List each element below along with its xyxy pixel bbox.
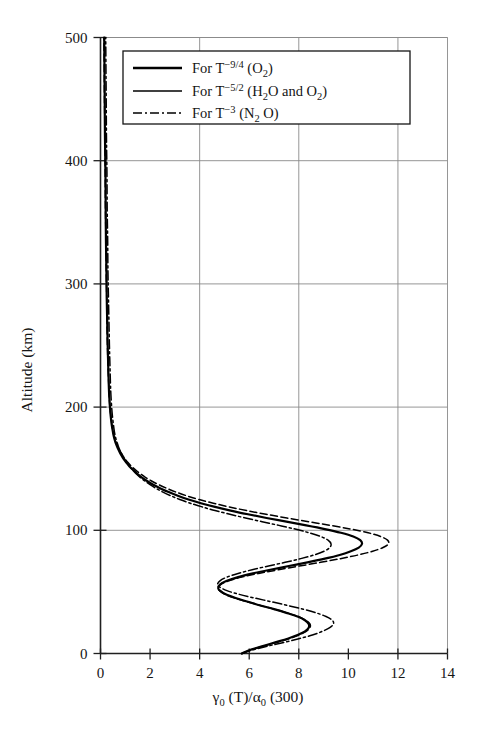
xtick-label-4: 4	[196, 665, 204, 681]
x-title-mid: (T)/	[225, 688, 254, 706]
ytick-label-500: 500	[65, 30, 88, 46]
x-title-gamma: γ	[212, 688, 220, 705]
legend: For T−9/4 (O2) For T−5/2 (H2O and O2) Fo…	[123, 51, 410, 124]
x-title-alpha: α	[253, 688, 261, 705]
altitude-vs-gamma-ratio-chart: 024681012140100200300400500 Altitude (km…	[0, 0, 497, 745]
ytick-label-200: 200	[65, 399, 88, 415]
xtick-label-14: 14	[440, 665, 456, 681]
chart-figure: 024681012140100200300400500 Altitude (km…	[0, 0, 497, 745]
xtick-label-6: 6	[245, 665, 253, 681]
xtick-label-2: 2	[146, 665, 154, 681]
x-title-end: (300)	[266, 688, 303, 706]
ytick-label-400: 400	[65, 153, 88, 169]
xtick-label-10: 10	[341, 665, 356, 681]
xtick-label-12: 12	[390, 665, 405, 681]
xtick-label-0: 0	[97, 665, 105, 681]
ytick-label-0: 0	[80, 646, 88, 662]
ytick-label-300: 300	[65, 276, 88, 292]
ytick-label-100: 100	[65, 522, 88, 538]
y-axis-title: Altitude (km)	[18, 328, 36, 413]
xtick-label-8: 8	[295, 665, 303, 681]
